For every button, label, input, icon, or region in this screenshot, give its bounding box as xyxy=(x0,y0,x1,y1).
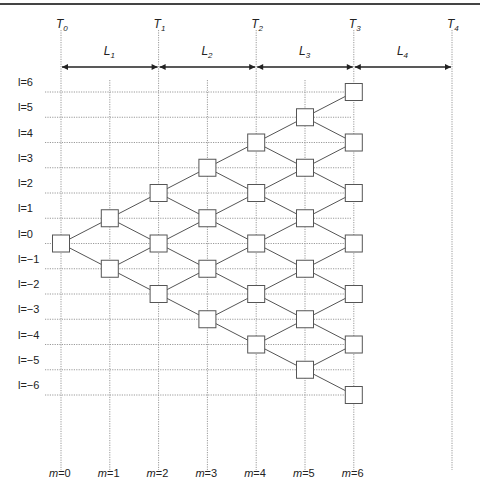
node-box xyxy=(297,210,314,227)
time-label-t0: T0 xyxy=(56,17,68,33)
time-label-t4: T4 xyxy=(447,17,459,33)
level-gridlines xyxy=(45,92,352,395)
node-box xyxy=(345,286,362,303)
period-label-l1: L1 xyxy=(104,44,115,60)
node-box xyxy=(248,134,265,151)
level-label: l=−1 xyxy=(18,253,39,265)
period-label-sub: 1 xyxy=(110,51,114,60)
step-label-m4: m=4 xyxy=(244,467,266,479)
level-label: l=−3 xyxy=(18,303,39,315)
node-box xyxy=(150,235,167,252)
step-value: =2 xyxy=(156,467,169,479)
node-box xyxy=(297,311,314,328)
node-box xyxy=(150,185,167,202)
arrowhead-right-icon xyxy=(445,64,451,70)
time-label-t3: T3 xyxy=(349,17,361,33)
period-label-sub: 3 xyxy=(306,51,311,60)
step-label-m2: m=2 xyxy=(147,467,169,479)
level-label: l=5 xyxy=(18,101,33,113)
node-box xyxy=(297,260,314,277)
step-var: m xyxy=(195,467,204,479)
step-value: =5 xyxy=(302,467,315,479)
level-label: l=−2 xyxy=(18,278,39,290)
node-box xyxy=(345,84,362,101)
node-box xyxy=(345,134,362,151)
level-label: l=6 xyxy=(18,76,33,88)
period-label-l3: L3 xyxy=(299,44,311,60)
node-box xyxy=(345,387,362,404)
node-box xyxy=(150,286,167,303)
time-label-sub: 0 xyxy=(63,24,68,33)
level-label: l=−4 xyxy=(18,329,39,341)
arrowhead-right-icon xyxy=(249,64,255,70)
time-label-sub: 4 xyxy=(454,24,459,33)
step-var: m xyxy=(342,467,351,479)
step-var: m xyxy=(98,467,107,479)
node-box xyxy=(199,210,216,227)
step-var: m xyxy=(49,467,58,479)
node-box xyxy=(248,336,265,353)
node-box xyxy=(297,109,314,126)
step-value: =6 xyxy=(351,467,364,479)
step-var: m xyxy=(293,467,302,479)
level-label: l=−6 xyxy=(18,379,39,391)
step-label-m6: m=6 xyxy=(342,467,364,479)
node-box xyxy=(248,286,265,303)
time-label-t2: T2 xyxy=(251,17,263,33)
arrowhead-left-icon xyxy=(257,64,263,70)
step-value: =0 xyxy=(58,467,71,479)
step-value: =3 xyxy=(205,467,218,479)
time-label-sub: 3 xyxy=(356,24,361,33)
arrowhead-left-icon xyxy=(62,64,68,70)
step-label-m0: m=0 xyxy=(49,467,71,479)
step-label-m1: m=1 xyxy=(98,467,120,479)
period-label-l2: L2 xyxy=(201,44,213,60)
node-box xyxy=(199,260,216,277)
arrowhead-right-icon xyxy=(347,64,353,70)
time-label-t1: T1 xyxy=(154,17,166,33)
arrowhead-left-icon xyxy=(160,64,166,70)
arrowhead-left-icon xyxy=(355,64,361,70)
node-box xyxy=(199,311,216,328)
node-box xyxy=(248,185,265,202)
node-box xyxy=(199,159,216,176)
level-label: l=3 xyxy=(18,152,33,164)
step-var: m xyxy=(147,467,156,479)
step-label-m5: m=5 xyxy=(293,467,315,479)
level-label: l=−5 xyxy=(18,354,39,366)
lattice-diagram: l=6l=5l=4l=3l=2l=1l=0l=−1l=−2l=−3l=−4l=−… xyxy=(0,0,480,495)
node-box xyxy=(297,159,314,176)
level-label: l=1 xyxy=(18,202,33,214)
node-box xyxy=(297,361,314,378)
level-label: l=4 xyxy=(18,127,33,139)
time-label-sub: 2 xyxy=(258,24,264,33)
node-box xyxy=(101,260,118,277)
step-label-m3: m=3 xyxy=(195,467,217,479)
node-box xyxy=(345,336,362,353)
step-value: =4 xyxy=(253,467,266,479)
node-box xyxy=(101,210,118,227)
arrowhead-right-icon xyxy=(152,64,158,70)
level-label: l=0 xyxy=(18,228,33,240)
node-box xyxy=(345,185,362,202)
node-box xyxy=(53,235,70,252)
time-label-sub: 1 xyxy=(161,24,165,33)
step-value: =1 xyxy=(107,467,120,479)
period-label-sub: 2 xyxy=(207,51,213,60)
level-label: l=2 xyxy=(18,177,33,189)
step-var: m xyxy=(244,467,253,479)
node-box xyxy=(248,235,265,252)
period-label-sub: 4 xyxy=(404,51,409,60)
node-box xyxy=(345,235,362,252)
period-label-l4: L4 xyxy=(397,44,409,60)
labels: l=6l=5l=4l=3l=2l=1l=0l=−1l=−2l=−3l=−4l=−… xyxy=(18,17,459,479)
